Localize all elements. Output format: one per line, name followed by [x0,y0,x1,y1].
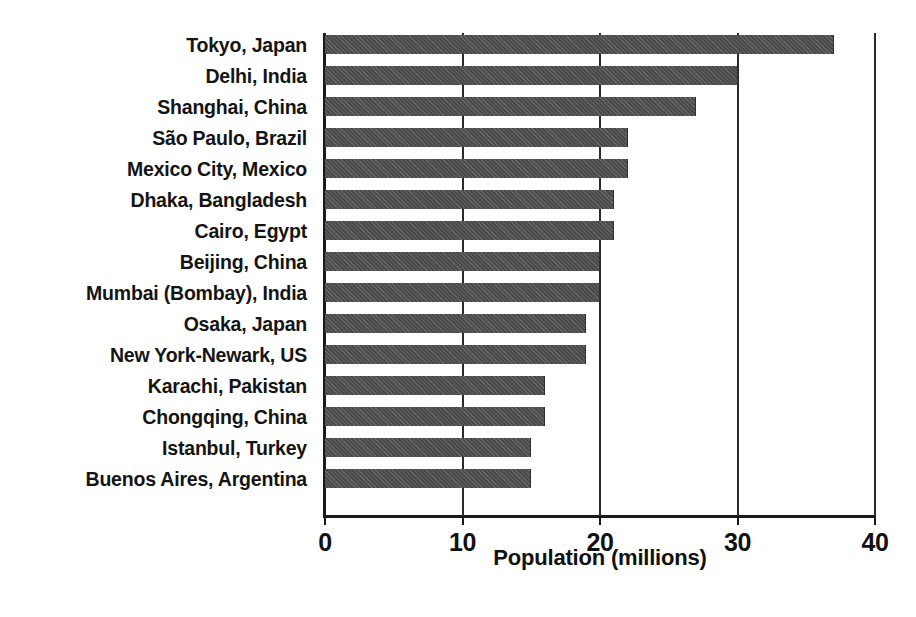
bar [325,35,834,54]
x-axis-title: Population (millions) [325,545,875,571]
bar [325,190,614,209]
bar-row [325,309,875,340]
bar [325,469,531,488]
category-label: Osaka, Japan [0,309,315,340]
plot-area: 010203040 [325,30,875,515]
bar-row [325,340,875,371]
category-label: Delhi, India [0,61,315,92]
bar-row [325,61,875,92]
bar [325,66,738,85]
bar-row [325,154,875,185]
category-label: Buenos Aires, Argentina [0,464,315,495]
category-label: Mumbai (Bombay), India [0,278,315,309]
bar [325,159,628,178]
tick-mark [874,516,876,525]
bar [325,252,600,271]
tick-mark [599,516,601,525]
bar [325,283,600,302]
bar [325,128,628,147]
bar-row [325,433,875,464]
bar-row [325,278,875,309]
bar [325,97,696,116]
bar-row [325,216,875,247]
category-label: New York-Newark, US [0,340,315,371]
bar-row [325,92,875,123]
tick-mark [737,516,739,525]
population-bar-chart: Tokyo, JapanDelhi, IndiaShanghai, ChinaS… [0,0,916,617]
tick-mark [324,516,326,525]
category-label: Chongqing, China [0,402,315,433]
category-label: Beijing, China [0,247,315,278]
category-axis-labels: Tokyo, JapanDelhi, IndiaShanghai, ChinaS… [0,30,315,495]
category-label: Istanbul, Turkey [0,433,315,464]
category-label: Tokyo, Japan [0,30,315,61]
bar-row [325,30,875,61]
bar [325,314,586,333]
tick-mark [462,516,464,525]
category-label: Mexico City, Mexico [0,154,315,185]
category-label: Karachi, Pakistan [0,371,315,402]
category-label: Shanghai, China [0,92,315,123]
bar [325,376,545,395]
bar-row [325,185,875,216]
category-label: Cairo, Egypt [0,216,315,247]
bar-row [325,464,875,495]
bar [325,345,586,364]
bar-series [325,30,875,515]
bar-row [325,402,875,433]
bar-row [325,123,875,154]
category-label: Dhaka, Bangladesh [0,185,315,216]
bar-row [325,371,875,402]
bar [325,438,531,457]
bar [325,407,545,426]
category-label: São Paulo, Brazil [0,123,315,154]
bar [325,221,614,240]
bar-row [325,247,875,278]
